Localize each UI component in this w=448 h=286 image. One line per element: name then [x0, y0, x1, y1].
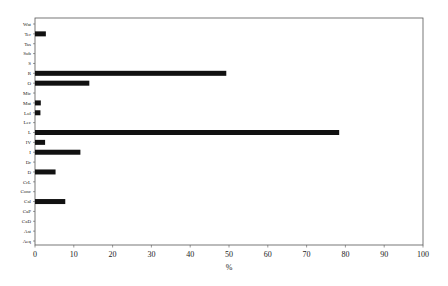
y-tick-label: IV — [26, 140, 32, 145]
bar-l — [35, 130, 339, 135]
bar-ter — [35, 31, 46, 36]
bar-r — [35, 71, 226, 76]
y-tick-label: R — [28, 71, 32, 76]
bar-chart: WatTerTasSubSROMicMatLolLecLIVIDrDCrLCon… — [0, 0, 448, 286]
y-tick-label: Sub — [23, 51, 31, 56]
y-tick-label: Ter — [24, 32, 31, 37]
y-tick-label: Lec — [24, 120, 32, 125]
x-tick-label: 20 — [109, 250, 117, 259]
y-tick-label: L — [28, 130, 31, 135]
y-tick-label: Cal — [24, 199, 32, 204]
y-tick-label: O — [27, 81, 31, 86]
y-tick-label: Lol — [24, 111, 32, 116]
y-tick-label: S — [28, 61, 31, 66]
x-tick-label: 10 — [70, 250, 78, 259]
y-tick-label: Mic — [23, 91, 32, 96]
y-tick-label: Wat — [23, 22, 32, 27]
bar-i — [35, 150, 80, 155]
bar-cal — [35, 199, 65, 204]
y-tick-label: Mat — [23, 101, 32, 106]
bar-d — [35, 169, 56, 174]
x-tick-label: 80 — [341, 250, 349, 259]
bar-lol — [35, 110, 40, 115]
x-tick-label: 50 — [225, 250, 233, 259]
y-tick-label: Aeq — [23, 239, 32, 244]
x-tick-label: 40 — [186, 250, 194, 259]
bar-o — [35, 81, 89, 86]
y-tick-label: Ast — [24, 229, 32, 234]
y-tick-label: CaD — [22, 219, 32, 224]
x-tick-label: 100 — [417, 250, 429, 259]
y-tick-label: Conc — [20, 189, 31, 194]
bar-mat — [35, 100, 41, 105]
y-tick-label: Tas — [24, 42, 31, 47]
x-axis-title: % — [226, 263, 233, 272]
y-tick-label: Dr — [26, 160, 32, 165]
bar-iv — [35, 140, 45, 145]
y-tick-label: D — [27, 170, 31, 175]
y-tick-label: CrL — [23, 180, 31, 185]
x-tick-label: 30 — [147, 250, 155, 259]
x-tick-label: 70 — [303, 250, 311, 259]
y-tick-label: CaP — [23, 209, 32, 214]
x-tick-label: 90 — [380, 250, 388, 259]
x-tick-label: 0 — [33, 250, 37, 259]
x-tick-label: 60 — [264, 250, 272, 259]
y-tick-label: I — [29, 150, 31, 155]
